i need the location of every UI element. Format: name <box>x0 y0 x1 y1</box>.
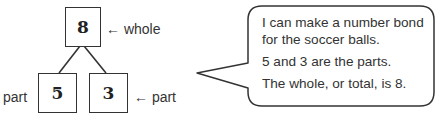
part-value-right: 3 <box>103 83 115 103</box>
whole-box: 8 <box>65 7 101 47</box>
part-label-right: ← part <box>134 89 176 105</box>
number-bond-diagram: 8 ← whole 5 part 3 ← part I can make a n… <box>0 0 439 122</box>
part-box-right: 3 <box>89 73 128 113</box>
speech-bubble-text: I can make a number bond for the soccer … <box>262 14 432 92</box>
whole-label: ← whole <box>106 21 160 37</box>
bubble-line-2: for the soccer balls. <box>262 31 432 48</box>
part-box-left: 5 <box>38 73 77 113</box>
whole-value: 8 <box>77 17 89 37</box>
bubble-line-4: The whole, or total, is 8. <box>262 75 432 92</box>
connector-right <box>84 46 106 73</box>
connector-left <box>59 46 80 73</box>
bubble-line-3: 5 and 3 are the parts. <box>262 53 432 70</box>
part-value-left: 5 <box>52 83 64 103</box>
bubble-line-1: I can make a number bond <box>262 14 432 31</box>
part-label-left: part <box>3 89 27 105</box>
